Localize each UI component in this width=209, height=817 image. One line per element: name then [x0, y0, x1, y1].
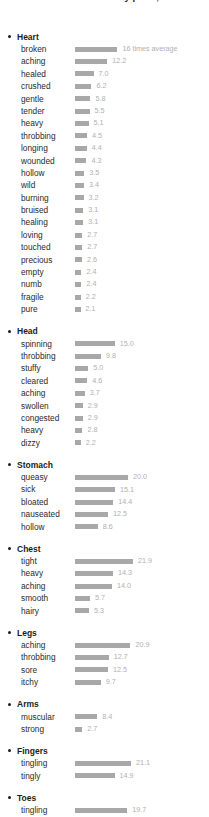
body-parts-bar-chart: Heartbroken16 times averageaching12.2hea… — [0, 30, 209, 817]
bar-row: bruised3.1 — [0, 204, 209, 216]
section-heading: Toes — [0, 791, 209, 804]
bar — [75, 487, 115, 492]
bar-row-label: broken — [21, 43, 46, 55]
bar-row: fragile2.2 — [0, 291, 209, 303]
bar-row-label: tender — [21, 105, 45, 117]
bar-row: empty2.4 — [0, 266, 209, 278]
bar — [75, 270, 81, 275]
bar-row: throbbing12.7 — [0, 651, 209, 663]
bar-zone: 4.3 — [75, 155, 101, 167]
bar-row: aching20.9 — [0, 639, 209, 651]
bar-row-label: burning — [21, 192, 49, 204]
bar — [75, 584, 112, 589]
bar-row-label: throbbing — [21, 651, 56, 663]
bar-zone: 4.4 — [75, 142, 102, 154]
bar-value-label: 14.3 — [118, 567, 132, 579]
bar-row-label: hollow — [21, 167, 45, 179]
bar-row-label: smooth — [21, 592, 48, 604]
bar-zone: 15.1 — [75, 484, 134, 496]
bar-zone: 5.8 — [75, 93, 105, 105]
bar — [75, 366, 88, 371]
section-toes: Toestingling19.7 — [0, 791, 209, 816]
bar-zone: 5.5 — [75, 105, 105, 117]
bar — [75, 773, 115, 778]
bar — [75, 282, 81, 287]
bar-row-label: congested — [21, 412, 59, 424]
bar — [75, 428, 82, 433]
bar-row: tingling19.7 — [0, 804, 209, 816]
bar-zone: 12.5 — [75, 664, 127, 676]
bar-zone: 12.7 — [75, 651, 128, 663]
bar-value-label: 6.2 — [96, 80, 106, 92]
bar-zone: 14.9 — [75, 770, 134, 782]
bar-row-label: bruised — [21, 204, 48, 216]
bar-row: swollen2.9 — [0, 400, 209, 412]
bar-row: loving2.7 — [0, 229, 209, 241]
bar-row: throbbing9.8 — [0, 350, 209, 362]
bar — [75, 655, 109, 660]
bar-zone: 4.5 — [75, 130, 102, 142]
bar-zone: 4.6 — [75, 375, 102, 387]
bar-value-label: 4.5 — [92, 130, 102, 142]
bar-value-label: 15.1 — [120, 484, 134, 496]
bar-row: heavy14.3 — [0, 567, 209, 579]
bar — [75, 171, 84, 176]
bar-zone: 14.3 — [75, 567, 132, 579]
bar-zone: 2.7 — [75, 723, 97, 735]
bar-zone: 8.4 — [75, 711, 112, 723]
bar-zone: 3.2 — [75, 192, 99, 204]
bar-value-label: 2.4 — [86, 278, 96, 290]
bar-row: congested2.9 — [0, 412, 209, 424]
bar-row: tingling21.1 — [0, 757, 209, 769]
bar — [75, 416, 83, 421]
bar-value-label: 20.9 — [135, 639, 149, 651]
bar-zone: 6.2 — [75, 80, 106, 92]
bullet-icon — [8, 796, 11, 799]
bar-row: gentle5.8 — [0, 93, 209, 105]
bar-row: wounded4.3 — [0, 155, 209, 167]
bar-value-label: 12.5 — [113, 664, 127, 676]
bar-row-label: pure — [21, 303, 38, 315]
bar-value-label: 4.4 — [92, 142, 102, 154]
bar-zone: 5.1 — [75, 117, 104, 129]
bullet-icon — [8, 35, 11, 38]
bar-zone: 20.0 — [75, 471, 147, 483]
bar — [75, 96, 90, 101]
bar-row: tingly14.9 — [0, 770, 209, 782]
bar-zone: 2.9 — [75, 412, 98, 424]
bar-value-label: 3.1 — [88, 204, 98, 216]
bar-row: numb2.4 — [0, 278, 209, 290]
bar-row-label: throbbing — [21, 130, 56, 142]
bar-value-label: 4.3 — [91, 155, 101, 167]
bar — [75, 183, 84, 188]
bar-row: heavy2.8 — [0, 424, 209, 436]
bar-value-label: 8.4 — [102, 711, 112, 723]
bar-value-label: 2.7 — [87, 241, 97, 253]
bullet-icon — [8, 749, 11, 752]
bar-value-label: 7.0 — [99, 68, 109, 80]
section-heading: Heart — [0, 30, 209, 43]
bar-row: smooth5.7 — [0, 592, 209, 604]
bar-row: nauseated12.5 — [0, 508, 209, 520]
bar-row-label: strong — [21, 723, 44, 735]
bar-value-label: 15.0 — [120, 338, 134, 350]
bar-row-label: heavy — [21, 424, 43, 436]
section-title: Heart — [17, 32, 39, 42]
section-title: Chest — [17, 544, 41, 554]
bar-row-label: tingling — [21, 804, 47, 816]
bar-row-label: wild — [21, 179, 35, 191]
bar-zone: 2.1 — [75, 303, 96, 315]
bar-row-label: healing — [21, 216, 48, 228]
bar-row: hollow3.5 — [0, 167, 209, 179]
bar — [75, 354, 101, 359]
bar-row: wild3.4 — [0, 179, 209, 191]
bar-row: healed7.0 — [0, 68, 209, 80]
bar-zone: 14.4 — [75, 496, 132, 508]
bar-row-label: throbbing — [21, 350, 56, 362]
bar-zone: 12.2 — [75, 55, 126, 67]
bar-zone: 2.8 — [75, 424, 97, 436]
bar-row: cleared4.6 — [0, 375, 209, 387]
bar-row: sore12.5 — [0, 664, 209, 676]
section-head: Headspinning15.0throbbing9.8stuffy5.0cle… — [0, 325, 209, 450]
bar — [75, 257, 82, 262]
